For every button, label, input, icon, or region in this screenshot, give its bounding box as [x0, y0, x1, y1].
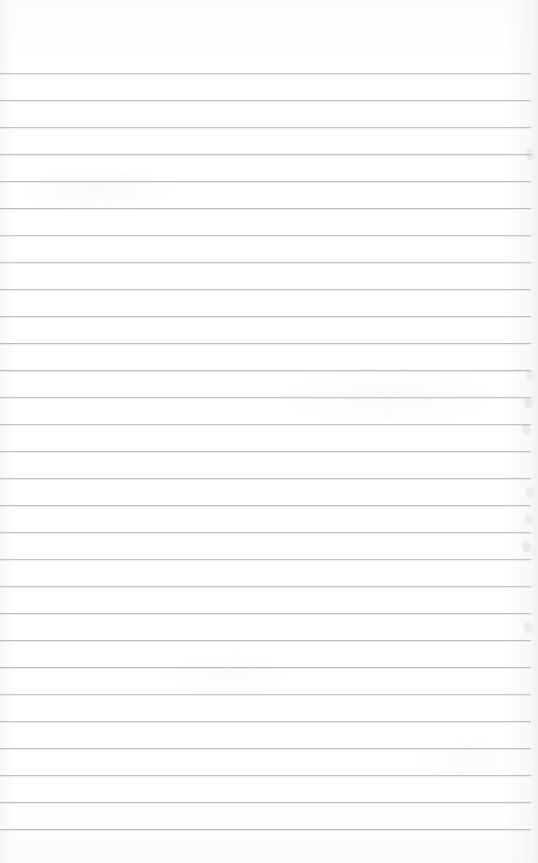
rule-line — [0, 451, 531, 452]
rule-line — [0, 775, 531, 776]
scanned-page: Blank ruled notebook page — [0, 0, 538, 863]
rule-line — [0, 370, 531, 371]
rule-line — [0, 235, 531, 236]
rule-line — [0, 154, 531, 155]
rule-line — [0, 73, 531, 74]
rule-line — [0, 424, 531, 425]
rule-line — [0, 748, 531, 749]
rule-line — [0, 829, 531, 830]
rule-line — [0, 316, 531, 317]
rule-line — [0, 397, 531, 398]
rule-line — [0, 721, 531, 722]
rule-line — [0, 262, 531, 263]
rule-line — [0, 802, 531, 803]
rule-line — [0, 532, 531, 533]
rule-line — [0, 100, 531, 101]
rule-line — [0, 208, 531, 209]
rule-line — [0, 478, 531, 479]
rule-line — [0, 640, 531, 641]
rule-line — [0, 613, 531, 614]
rule-line — [0, 559, 531, 560]
ruled-lines-layer — [0, 0, 538, 863]
rule-line — [0, 694, 531, 695]
rule-line — [0, 289, 531, 290]
rule-line — [0, 667, 531, 668]
rule-line — [0, 343, 531, 344]
rule-line — [0, 586, 531, 587]
rule-line — [0, 127, 531, 128]
rule-line — [0, 505, 531, 506]
rule-line — [0, 181, 531, 182]
